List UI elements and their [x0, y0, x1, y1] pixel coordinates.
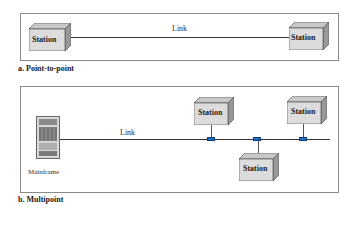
- station-label: Station: [243, 164, 267, 173]
- tap-line-1: [211, 124, 212, 138]
- mainframe-icon: [36, 116, 60, 159]
- p2p-station-left: Station: [29, 23, 71, 51]
- station-label: Station: [291, 107, 315, 116]
- station-label: Station: [32, 35, 56, 44]
- tap-connector-2: [253, 137, 261, 141]
- tap-connector-1: [207, 137, 215, 141]
- tap-line-3: [303, 123, 304, 138]
- p2p-caption: a. Point-to-point: [18, 64, 74, 73]
- multipoint-caption: b. Multipoint: [18, 195, 63, 204]
- mainframe-label: Mainframe: [28, 168, 59, 176]
- multipoint-station-2: Station: [239, 153, 279, 181]
- multipoint-link-line: [60, 139, 330, 140]
- multipoint-station-3: Station: [287, 96, 327, 124]
- p2p-station-right: Station: [289, 22, 329, 50]
- multipoint-station-1: Station: [194, 97, 234, 125]
- multipoint-link-label: Link: [120, 128, 135, 137]
- station-label: Station: [291, 33, 315, 42]
- p2p-link-label: Link: [172, 24, 187, 33]
- station-label: Station: [198, 108, 222, 117]
- tap-connector-3: [299, 137, 307, 141]
- p2p-link-line: [68, 37, 291, 38]
